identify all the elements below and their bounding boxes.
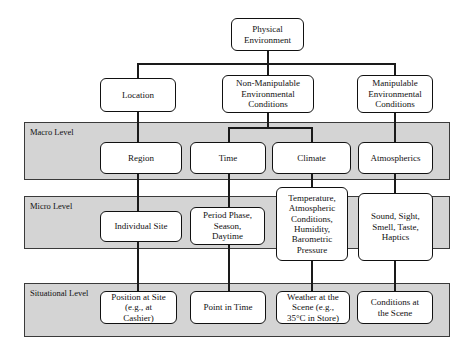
connector-period-phase-to-point-in-time xyxy=(228,244,230,291)
band-situational-level-label: Situational Level xyxy=(30,288,88,298)
node-location-label: Location xyxy=(122,90,154,100)
connector-senses-to-conditions xyxy=(394,260,396,291)
node-period-phase-label: Period Phase, Season, Daytime xyxy=(203,210,252,241)
node-atmospherics-label: Atmospherics xyxy=(371,153,421,163)
node-manipulable-conditions-label: Manipulable Environmental Conditions xyxy=(368,78,422,109)
node-point-in-time-label: Point in Time xyxy=(203,302,252,312)
node-individual-site-label: Individual Site xyxy=(114,221,167,231)
node-weather-at-scene-label: Weather at the Scene (e.g., 35°C in Stor… xyxy=(287,292,339,323)
node-atmospherics[interactable]: Atmospherics xyxy=(358,142,433,174)
connector-non-manipulable-bus xyxy=(228,127,313,129)
node-conditions-at-scene-label: Conditions at the Scene xyxy=(371,297,419,318)
connector-root-down xyxy=(267,50,269,64)
connector-bus-to-climate xyxy=(311,127,313,142)
connector-time-to-period-phase xyxy=(228,173,230,207)
node-temperature-conditions[interactable]: Temperature, Atmospheric Conditions, Hum… xyxy=(276,187,348,261)
connector-temperature-to-weather xyxy=(311,260,313,291)
connector-climate-to-temperature xyxy=(311,173,313,187)
connector-bus-to-time xyxy=(228,127,230,142)
node-temperature-conditions-label: Temperature, Atmospheric Conditions, Hum… xyxy=(288,193,336,255)
node-conditions-at-scene[interactable]: Conditions at the Scene xyxy=(357,291,433,324)
connector-atmospherics-to-senses xyxy=(394,173,396,193)
connector-location-to-region xyxy=(137,112,139,142)
node-sensory-atmospherics[interactable]: Sound, Sight, Smell, Taste, Haptics xyxy=(358,193,433,261)
connector-individual-site-to-position xyxy=(137,241,139,291)
node-individual-site[interactable]: Individual Site xyxy=(100,211,182,242)
node-point-in-time[interactable]: Point in Time xyxy=(190,291,266,324)
node-climate[interactable]: Climate xyxy=(272,142,351,174)
node-sensory-atmospherics-label: Sound, Sight, Smell, Taste, Haptics xyxy=(371,211,420,242)
node-time[interactable]: Time xyxy=(190,142,266,174)
connector-manipulable-to-atmospherics xyxy=(394,112,396,142)
connector-region-to-individual-site xyxy=(137,173,139,211)
diagram-canvas: Macro Level Micro Level Situational Leve… xyxy=(0,0,467,353)
node-period-phase[interactable]: Period Phase, Season, Daytime xyxy=(190,207,265,245)
connector-non-manipulable-down xyxy=(267,112,269,128)
node-region-label: Region xyxy=(128,153,154,163)
band-micro-level-label: Micro Level xyxy=(30,201,72,211)
connector-bus-to-location xyxy=(137,63,139,78)
band-macro-level-label: Macro Level xyxy=(30,127,74,137)
node-location[interactable]: Location xyxy=(100,78,176,112)
node-position-at-site-label: Position at Site (e.g., at Cashier) xyxy=(111,292,166,323)
node-climate-label: Climate xyxy=(297,153,326,163)
node-time-label: Time xyxy=(219,153,238,163)
node-physical-environment-label: Physical Environment xyxy=(244,24,291,45)
node-physical-environment[interactable]: Physical Environment xyxy=(231,18,304,51)
node-non-manipulable-conditions-label: Non-Manipulable Environmental Conditions xyxy=(236,78,300,109)
node-manipulable-conditions[interactable]: Manipulable Environmental Conditions xyxy=(357,75,433,113)
node-region[interactable]: Region xyxy=(100,142,182,174)
node-non-manipulable-conditions[interactable]: Non-Manipulable Environmental Conditions xyxy=(222,75,314,113)
node-position-at-site[interactable]: Position at Site (e.g., at Cashier) xyxy=(100,291,177,324)
node-weather-at-scene[interactable]: Weather at the Scene (e.g., 35°C in Stor… xyxy=(276,291,350,324)
